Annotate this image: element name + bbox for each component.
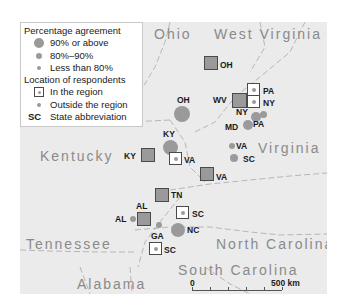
marker-label: PA — [253, 120, 264, 129]
hollow-square-icon — [34, 87, 44, 97]
state-label-south-carolina: South Carolina — [178, 262, 299, 278]
marker-label: SC — [243, 155, 255, 164]
legend-location-title: Location of respondents — [24, 74, 139, 86]
scale-end-label: 500 km — [271, 278, 300, 288]
legend-item-outside-region: Outside the region — [24, 99, 139, 111]
marker-nc-dot — [171, 223, 185, 237]
small-dot-icon — [37, 66, 41, 70]
marker-oh-in-region — [204, 56, 218, 70]
marker-sc-dot — [230, 154, 238, 162]
marker-al-in-region — [137, 212, 151, 226]
marker-ny-outside — [247, 95, 260, 108]
marker-label: VA — [184, 156, 195, 165]
marker-label: SC — [192, 210, 204, 219]
marker-va-outside — [169, 152, 182, 165]
map-legend: Percentage agreement 90% or above 80%–90… — [20, 22, 143, 127]
outside-dot-icon — [37, 103, 41, 107]
marker-label: TN — [171, 191, 182, 200]
marker-va-dot — [229, 143, 235, 149]
marker-label: OH — [177, 96, 190, 105]
marker-label: OH — [220, 61, 233, 70]
marker-label: SC — [164, 246, 176, 255]
state-label-alabama: Alabama — [77, 276, 146, 292]
marker-label: NY — [263, 99, 275, 108]
marker-wv-in-region — [232, 93, 247, 108]
legend-item-in-region: In the region — [24, 86, 139, 98]
legend-agreement-title: Percentage agreement — [24, 25, 139, 37]
legend-item-low: Less than 80% — [24, 62, 139, 74]
marker-va-in-region — [200, 167, 214, 181]
marker-label: VA — [236, 142, 247, 151]
large-dot-icon — [34, 38, 44, 48]
marker-label: AL — [115, 215, 126, 224]
marker-label: VA — [216, 173, 227, 182]
marker-sc-outside — [176, 206, 189, 219]
marker-label: AL — [136, 202, 147, 211]
legend-item-mid: 80%–90% — [24, 50, 139, 62]
marker-sc-outside — [149, 242, 162, 255]
marker-label: PA — [263, 87, 274, 96]
marker-label: KY — [163, 130, 175, 139]
state-label-virginia: Virginia — [258, 140, 320, 156]
state-label-kentucky: Kentucky — [40, 148, 114, 164]
legend-item-high: 90% or above — [24, 37, 139, 49]
marker-ky-in-region — [141, 148, 155, 162]
state-label-west-virginia: West Virginia — [214, 26, 322, 42]
state-label-ohio: Ohio — [154, 26, 192, 42]
marker-pa-dot — [260, 111, 267, 118]
marker-al-dot — [130, 216, 136, 222]
marker-label: KY — [124, 152, 136, 161]
marker-tn-in-region — [155, 188, 169, 202]
medium-dot-icon — [36, 53, 42, 59]
marker-oh-dot — [174, 106, 190, 122]
marker-label: NC — [187, 226, 199, 235]
state-label-north-carolina: North Carolina — [216, 236, 327, 252]
marker-label: NY — [236, 108, 248, 117]
marker-label: GA — [151, 232, 164, 241]
legend-item-abbreviation: SC State abbreviation — [24, 111, 139, 123]
marker-md-dot — [243, 120, 253, 130]
marker-label: MD — [225, 123, 238, 132]
marker-label: WV — [213, 96, 227, 105]
marker-ga-dot — [156, 222, 162, 228]
state-label-tennessee: Tennessee — [26, 236, 112, 252]
